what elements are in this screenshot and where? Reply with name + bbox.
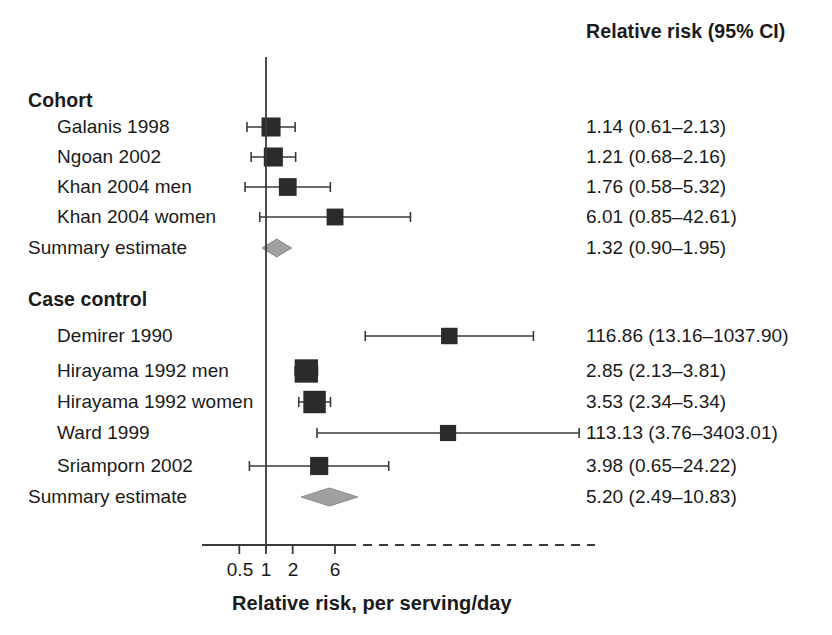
summary-label-case-control: Summary estimate	[28, 487, 187, 506]
study-label-khan-2004-women: Khan 2004 women	[57, 207, 216, 226]
forest-row-galanis-1998	[247, 117, 295, 136]
forest-row-hirayama-1992-men	[295, 359, 318, 382]
forest-row-khan-2004-women	[260, 209, 411, 226]
forest-row-hirayama-1992-women	[299, 391, 331, 413]
forest-row-ngoan-2002	[251, 147, 295, 166]
study-label-hirayama-1992-women: Hirayama 1992 women	[57, 392, 253, 411]
estimate-ward-1999: 113.13 (3.76–3403.01)	[586, 423, 778, 442]
forest-row-khan-2004-men	[245, 178, 330, 196]
axis-layer	[202, 57, 595, 554]
study-label-sriamporn-2002: Sriamporn 2002	[57, 456, 193, 475]
plot-rows-layer	[245, 117, 579, 506]
estimate-summary-cohort: 1.32 (0.90–1.95)	[586, 238, 726, 257]
point-estimate-marker-demirer-1990	[441, 328, 457, 344]
summary-label-cohort: Summary estimate	[28, 238, 187, 257]
forest-row-sriamporn-2002	[249, 457, 388, 475]
estimate-galanis-1998: 1.14 (0.61–2.13)	[586, 117, 726, 136]
x-axis-title: Relative risk, per serving/day	[232, 593, 512, 613]
group-label-case-control: Case control	[28, 290, 147, 310]
x-tick-label-2: 2	[279, 560, 307, 579]
point-estimate-marker-ward-1999	[440, 425, 456, 441]
x-tick-label-3: 6	[321, 560, 349, 579]
estimate-hirayama-1992-women: 3.53 (2.34–5.34)	[586, 392, 726, 411]
point-estimate-marker-galanis-1998	[262, 117, 281, 136]
study-label-demirer-1990: Demirer 1990	[57, 326, 173, 345]
estimate-hirayama-1992-men: 2.85 (2.13–3.81)	[586, 361, 726, 380]
right-column-header: Relative risk (95% CI)	[586, 22, 785, 42]
point-estimate-marker-hirayama-1992-women	[303, 391, 325, 413]
summary-diamond-case-control	[301, 488, 358, 506]
group-label-cohort: Cohort	[28, 91, 93, 111]
estimate-ngoan-2002: 1.21 (0.68–2.16)	[586, 147, 726, 166]
estimate-khan-2004-women: 6.01 (0.85–42.61)	[586, 207, 737, 226]
x-tick-label-1: 1	[252, 560, 280, 579]
study-label-ngoan-2002: Ngoan 2002	[57, 147, 161, 166]
study-label-galanis-1998: Galanis 1998	[57, 117, 170, 136]
study-label-ward-1999: Ward 1999	[57, 423, 150, 442]
forest-row-demirer-1990	[365, 328, 533, 344]
point-estimate-marker-khan-2004-men	[279, 178, 297, 196]
estimate-demirer-1990: 116.86 (13.16–1037.90)	[586, 326, 789, 345]
estimate-sriamporn-2002: 3.98 (0.65–24.22)	[586, 456, 737, 475]
study-label-hirayama-1992-men: Hirayama 1992 men	[57, 361, 229, 380]
point-estimate-marker-sriamporn-2002	[310, 457, 328, 475]
point-estimate-marker-hirayama-1992-men	[295, 359, 318, 382]
forest-plot	[0, 0, 832, 635]
point-estimate-marker-khan-2004-women	[327, 209, 344, 226]
estimate-summary-case-control: 5.20 (2.49–10.83)	[586, 487, 737, 506]
estimate-khan-2004-men: 1.76 (0.58–5.32)	[586, 177, 726, 196]
study-label-khan-2004-men: Khan 2004 men	[57, 177, 192, 196]
forest-row-ward-1999	[317, 425, 579, 441]
